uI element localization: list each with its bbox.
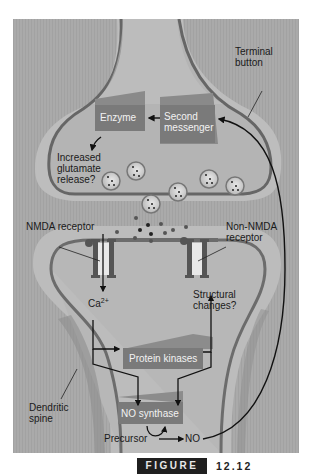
- second-messenger-label-line1: Second: [164, 111, 213, 122]
- non-nmda-receptor-line2: receptor: [226, 232, 277, 243]
- calcium-symbol: Ca: [88, 298, 101, 309]
- enzyme-label: Enzyme: [100, 112, 136, 123]
- figure-badge: FIGURE: [137, 458, 207, 474]
- dendritic-spine-label: Dendritic spine: [29, 402, 68, 424]
- second-messenger-label: Second messenger: [164, 111, 213, 133]
- terminal-button-label-line2: button: [235, 57, 273, 68]
- non-nmda-receptor-label: Non-NMDA receptor: [226, 221, 277, 243]
- structural-changes-line1: Structural: [193, 289, 236, 300]
- terminal-button-label-line1: Terminal: [235, 46, 273, 57]
- increased-glutamate-label: Increased glutamate release?: [57, 152, 101, 185]
- increased-glutamate-line2: glutamate: [57, 163, 101, 174]
- structural-changes-label: Structural changes?: [193, 289, 236, 311]
- protein-kinases-label: Protein kinases: [129, 353, 197, 364]
- dendritic-spine-line2: spine: [29, 413, 68, 424]
- structural-changes-line2: changes?: [193, 300, 236, 311]
- terminal-button-label: Terminal button: [235, 46, 273, 68]
- precursor-label: Precursor: [104, 433, 147, 444]
- increased-glutamate-line1: Increased: [57, 152, 101, 163]
- calcium-charge: 2+: [101, 297, 109, 304]
- dendritic-spine-line1: Dendritic: [29, 402, 68, 413]
- nitric-oxide-label: NO: [185, 433, 200, 444]
- increased-glutamate-line3: release?: [57, 174, 101, 185]
- no-synthase-label: NO synthase: [121, 408, 179, 419]
- synapse-diagram: Terminal button Enzyme Second messenger …: [13, 19, 299, 453]
- non-nmda-receptor-line1: Non-NMDA: [226, 221, 277, 232]
- nmda-receptor-label: NMDA receptor: [26, 221, 94, 232]
- calcium-label: Ca2+: [88, 295, 109, 309]
- figure-number: 12.12: [216, 458, 252, 474]
- second-messenger-label-line2: messenger: [164, 122, 213, 133]
